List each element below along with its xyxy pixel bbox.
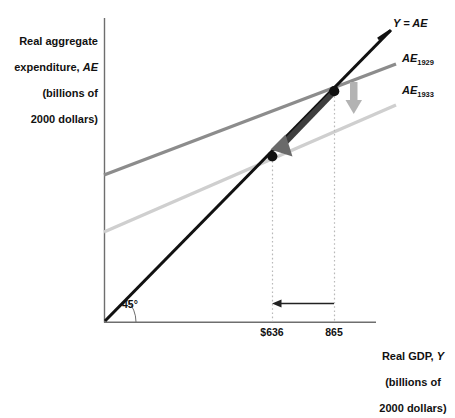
ae-variable-glyph: AE	[83, 61, 98, 73]
y-variable-glyph: Y	[437, 350, 444, 362]
label-ae-1929-main: AE	[402, 52, 417, 64]
axes	[104, 18, 376, 323]
label-ae-1933-main: AE	[402, 84, 417, 96]
equilibrium-point-1929	[329, 86, 339, 96]
y-axis-title: Real aggregate expenditure, AE (billions…	[8, 22, 98, 139]
forty-five-degree-line	[105, 30, 391, 321]
x-axis-title-line-3: 2000 dollars)	[372, 402, 454, 415]
ae-shift-down-arrow-icon	[346, 82, 363, 114]
x-axis-title: Real GDP, Y (billions of 2000 dollars)	[372, 337, 454, 418]
ae-1929-line	[104, 64, 396, 175]
y-axis-title-line-2: expenditure, AE	[8, 61, 98, 74]
label-ae-1929-subscript: 1929	[417, 58, 434, 67]
x-tick-label-865: 865	[312, 326, 356, 338]
angle-label-45-degrees: 45°	[122, 298, 138, 310]
y-axis-title-line-4: 2000 dollars)	[8, 113, 98, 126]
x-axis-title-line-2: (billions of	[372, 376, 454, 389]
x-tick-label-636: $636	[247, 326, 297, 338]
y-axis-title-line-1: Real aggregate	[8, 35, 98, 48]
real-gdp-decline-arrow-icon	[272, 299, 334, 307]
equilibrium-point-1933	[267, 151, 277, 161]
x-axis-title-line-1: Real GDP, Y	[372, 350, 454, 363]
label-ae-1933: AE1933	[402, 84, 434, 96]
y-axis-title-line-3: (billions of	[8, 87, 98, 100]
label-ae-1933-subscript: 1933	[417, 90, 434, 99]
label-y-equals-ae: Y = AE	[393, 17, 428, 29]
ae-1933-line	[104, 105, 396, 232]
label-ae-1929: AE1929	[402, 52, 434, 64]
